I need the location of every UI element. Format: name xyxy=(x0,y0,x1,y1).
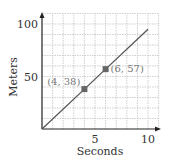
data-point-label: (4, 38) xyxy=(47,76,80,87)
data-point-label: (6, 57) xyxy=(111,63,144,74)
x-tick-label: 10 xyxy=(141,133,155,146)
y-axis-arrow-icon xyxy=(40,12,45,18)
y-tick-label: 50 xyxy=(24,71,38,84)
line-chart: 51050100 (4, 38)(6, 57) Seconds Meters xyxy=(0,0,169,166)
x-axis-arrow-icon xyxy=(155,127,161,132)
tick-labels: 51050100 xyxy=(17,18,155,146)
y-tick-label: 100 xyxy=(17,18,38,31)
y-axis-label: Meters xyxy=(7,57,20,97)
data-point-marker xyxy=(81,86,87,92)
data-point-marker xyxy=(103,66,109,72)
data-points: (4, 38)(6, 57) xyxy=(47,63,144,92)
x-axis-label: Seconds xyxy=(77,145,124,158)
